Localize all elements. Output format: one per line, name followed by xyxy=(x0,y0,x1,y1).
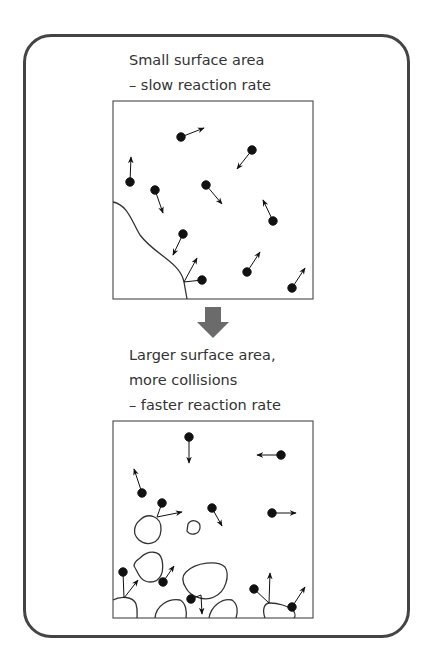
top-particles xyxy=(126,128,305,292)
solid-particles xyxy=(113,516,295,618)
bottom-panel-box xyxy=(113,421,313,618)
top-panel-box xyxy=(113,101,313,299)
down-arrow-icon xyxy=(197,307,229,338)
diagram-canvas xyxy=(0,0,429,657)
bottom-particles xyxy=(119,433,305,614)
solid-surface-curve xyxy=(113,202,187,299)
